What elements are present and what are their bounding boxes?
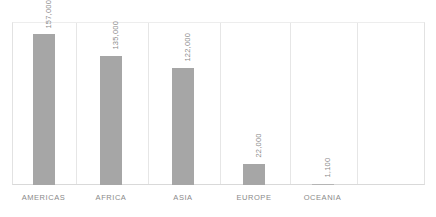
bar-oceania[interactable]: 1,100 bbox=[312, 184, 334, 186]
bar-column-oceania: 1,100 bbox=[289, 22, 356, 185]
bar-value-americas: 157,000 bbox=[44, 0, 52, 28]
bar-africa[interactable]: 135,000 bbox=[100, 56, 122, 185]
bar-column-europe: 22,000 bbox=[219, 22, 289, 185]
bar-value-oceania: 1,100 bbox=[323, 158, 331, 178]
category-label-empty bbox=[356, 190, 425, 210]
bar-americas[interactable]: 157,000 bbox=[33, 34, 55, 185]
bar-column-africa: 135,000 bbox=[75, 22, 147, 185]
bar-value-europe: 22,000 bbox=[255, 134, 263, 158]
category-axis: AMERICAS AFRICA ASIA EUROPE OCEANIA bbox=[12, 190, 425, 210]
category-label-americas: AMERICAS bbox=[12, 190, 75, 210]
bar-column-empty bbox=[356, 22, 425, 185]
bar-value-asia: 122,000 bbox=[184, 33, 192, 62]
category-label-asia: ASIA bbox=[147, 190, 219, 210]
bar-column-americas: 157,000 bbox=[12, 22, 75, 185]
category-label-europe: EUROPE bbox=[219, 190, 289, 210]
bar-columns: 157,000 135,000 122,000 22,000 1,100 bbox=[12, 22, 425, 185]
bar-europe[interactable]: 22,000 bbox=[243, 164, 265, 185]
bar-asia[interactable]: 122,000 bbox=[172, 68, 194, 185]
bar-chart: 157,000 135,000 122,000 22,000 1,100 A bbox=[0, 0, 436, 217]
category-label-oceania: OCEANIA bbox=[289, 190, 356, 210]
bar-column-asia: 122,000 bbox=[147, 22, 219, 185]
category-label-africa: AFRICA bbox=[75, 190, 147, 210]
bar-value-africa: 135,000 bbox=[112, 21, 120, 50]
